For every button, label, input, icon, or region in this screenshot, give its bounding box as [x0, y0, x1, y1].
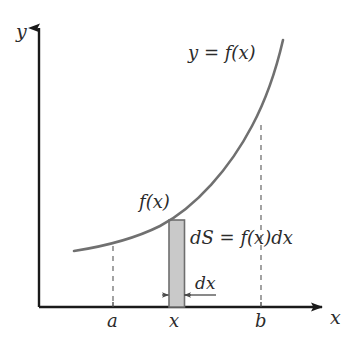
- tick-label-x: x: [169, 312, 179, 330]
- y-axis-label: y: [16, 22, 27, 41]
- area-element-rect: [169, 220, 185, 307]
- tick-label-b: b: [255, 312, 267, 330]
- function-value-label: f(x): [139, 193, 170, 211]
- calculus-area-diagram: y x y = f(x) f(x) dS = f(x)dx dx a x b: [0, 0, 360, 344]
- tick-label-a: a: [107, 312, 118, 330]
- x-axis-label: x: [330, 308, 341, 327]
- curve-equation-label: y = f(x): [188, 44, 256, 62]
- area-element-label: dS = f(x)dx: [190, 229, 293, 247]
- width-element-label: dx: [195, 275, 215, 292]
- diagram-canvas: [0, 0, 360, 344]
